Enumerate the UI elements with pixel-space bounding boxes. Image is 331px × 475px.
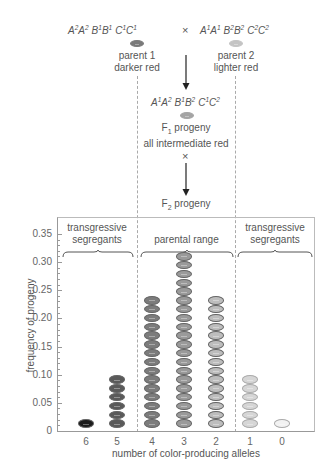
region-left-line2: segregants [58, 234, 136, 246]
x-tick-label: 1 [240, 436, 260, 447]
allele: B2 [234, 25, 244, 36]
progeny-oval-icon [176, 367, 192, 375]
x-tick-label: 0 [272, 436, 292, 447]
y-tick [57, 245, 60, 246]
y-tick [57, 341, 60, 342]
progeny-oval-icon [208, 411, 224, 419]
brace-right-icon [237, 250, 313, 258]
y-tick [57, 363, 60, 364]
region-label-right: transgressive segregants [236, 222, 314, 246]
y-tick [57, 414, 60, 415]
allele: C1 [126, 25, 137, 36]
y-tick [57, 347, 62, 348]
progeny-oval-icon [109, 375, 125, 383]
progeny-oval-icon [176, 411, 192, 419]
allele: C2 [209, 97, 220, 108]
progeny-oval-icon [176, 384, 192, 392]
y-tick [57, 279, 60, 280]
f1-suffix: progeny [172, 122, 211, 133]
parent2-genotype: A1A1B2B2C2C2 [200, 24, 269, 36]
progeny-oval-icon [242, 375, 258, 383]
progeny-oval-icon [176, 279, 192, 287]
allele: A1 [200, 25, 210, 36]
parent2-label-line1: parent 2 [206, 50, 266, 62]
y-tick [57, 285, 60, 286]
progeny-oval-icon [109, 384, 125, 392]
region-right-line1: transgressive [236, 222, 314, 234]
y-tick [57, 397, 60, 398]
f2-label: F2 progeny [137, 198, 235, 214]
y-tick [57, 313, 60, 314]
progeny-oval-icon [109, 411, 125, 419]
x-tick-label: 3 [174, 436, 194, 447]
f1-genotype: A1A2B1B2C1C2 [151, 96, 220, 108]
x-tick-label: 2 [206, 436, 226, 447]
y-tick [57, 234, 62, 235]
allele: B2 [224, 25, 234, 36]
f1-oval-icon [180, 112, 194, 119]
progeny-oval-icon [208, 375, 224, 383]
f1-label-line1: F1 progeny [137, 122, 235, 138]
region-label-left: transgressive segregants [58, 222, 136, 246]
selfing-symbol: × [182, 150, 188, 162]
brace-left-icon [62, 250, 134, 258]
progeny-oval-icon [176, 287, 192, 295]
parent2-label-line2: lighter red [206, 62, 266, 74]
allele: B1 [92, 25, 102, 36]
progeny-oval-icon [242, 411, 258, 419]
progeny-oval-icon [208, 419, 224, 427]
parent2-oval-icon [229, 40, 243, 47]
parent1-label-line1: parent 1 [107, 50, 167, 62]
y-tick-label: 0.30 [22, 256, 52, 267]
y-tick [57, 290, 62, 291]
y-tick [57, 318, 62, 319]
arrow-down-icon [182, 55, 190, 91]
y-tick [57, 358, 60, 359]
progeny-oval-icon [176, 331, 192, 339]
progeny-oval-icon [144, 411, 160, 419]
allele: A2 [68, 25, 78, 36]
f1-label-line2: all intermediate red [137, 138, 235, 150]
progeny-oval-icon [78, 419, 94, 427]
f1-label: F1 progeny all intermediate red [137, 122, 235, 150]
progeny-oval-icon [274, 419, 290, 427]
y-tick [57, 301, 60, 302]
y-tick-label: 0.35 [22, 228, 52, 239]
progeny-oval-icon [144, 367, 160, 375]
y-tick [57, 425, 60, 426]
progeny-oval-icon [208, 384, 224, 392]
allele: B1 [102, 25, 112, 36]
y-tick [57, 324, 60, 325]
progeny-oval-icon [144, 375, 160, 383]
y-tick [57, 375, 62, 376]
region-left-line1: transgressive [58, 222, 136, 234]
y-tick [57, 256, 60, 257]
x-tick-label: 4 [142, 436, 162, 447]
y-tick [57, 251, 60, 252]
y-tick [57, 369, 60, 370]
allele: A1 [151, 97, 161, 108]
allele: C2 [258, 25, 269, 36]
progeny-oval-icon [109, 419, 125, 427]
y-tick [57, 296, 60, 297]
y-tick [57, 431, 62, 432]
progeny-oval-icon [208, 296, 224, 304]
progeny-oval-icon [242, 384, 258, 392]
y-tick [57, 420, 60, 421]
arrow-down-icon [182, 163, 190, 197]
progeny-oval-icon [144, 296, 160, 304]
allele: C1 [198, 97, 209, 108]
progeny-oval-icon [208, 323, 224, 331]
progeny-oval-icon [176, 340, 192, 348]
allele: A2 [161, 97, 171, 108]
y-tick [57, 273, 60, 274]
progeny-oval-icon [176, 252, 192, 260]
progeny-oval-icon [144, 384, 160, 392]
y-tick [57, 268, 60, 269]
progeny-oval-icon [208, 331, 224, 339]
cross-symbol: × [182, 24, 188, 36]
y-tick [57, 335, 60, 336]
allele: C2 [247, 25, 258, 36]
region-right-line2: segregants [236, 234, 314, 246]
parent2-label: parent 2 lighter red [206, 50, 266, 74]
